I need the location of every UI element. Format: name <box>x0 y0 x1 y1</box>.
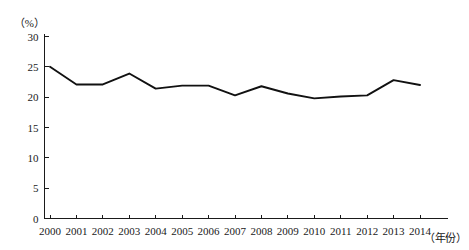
y-tick-label: 30 <box>28 31 40 43</box>
data-series-line <box>50 67 420 99</box>
x-tick-label: 2002 <box>92 225 114 237</box>
x-tick-label: 2007 <box>224 225 247 237</box>
x-tick-label: 2014 <box>409 225 432 237</box>
x-tick-label: 2006 <box>198 225 221 237</box>
y-tick-label: 10 <box>28 152 40 164</box>
x-tick-label: 2004 <box>145 225 168 237</box>
x-tick-label: 2010 <box>303 225 326 237</box>
y-tick-label: 0 <box>33 213 39 225</box>
y-tick-label: 15 <box>28 122 40 134</box>
x-tick-label: 2009 <box>277 225 300 237</box>
x-tick-label: 2003 <box>118 225 141 237</box>
y-tick-label: 25 <box>28 61 40 73</box>
line-chart-plot: 051015202530 200020012002200320042005200… <box>0 0 469 250</box>
y-tick-label: 20 <box>28 91 40 103</box>
y-axis-ticks: 051015202530 <box>28 31 49 225</box>
x-tick-label: 2001 <box>65 225 87 237</box>
x-axis-ticks: 2000200120022003200420052006200720082009… <box>39 215 432 237</box>
x-tick-label: 2013 <box>383 225 406 237</box>
x-tick-label: 2008 <box>250 225 273 237</box>
x-tick-label: 2000 <box>39 225 62 237</box>
x-tick-label: 2011 <box>330 225 352 237</box>
chart-axes <box>45 34 448 219</box>
x-tick-label: 2005 <box>171 225 194 237</box>
y-tick-label: 5 <box>33 182 39 194</box>
x-tick-label: 2012 <box>356 225 378 237</box>
chart-figure: （%） （年份） 051015202530 200020012002200320… <box>0 0 469 250</box>
